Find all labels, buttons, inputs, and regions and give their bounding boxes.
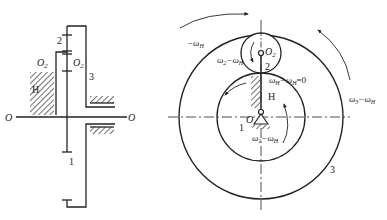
label-omega2-minus-omegah: ω2−ωH [217,55,244,66]
label-carrier-h: H [32,84,39,95]
label-neg-omega-h: −ωH [187,38,204,49]
label-sun-1-right: 1 [239,122,244,133]
left-schematic [16,26,127,207]
label-omega1-minus-omegah: ω1−ωH [252,133,279,144]
right-labels: O2 2 H O 1 3 −ωH ω2−ωH ωH−ωH=0 ω1−ωH ω3−… [187,38,376,175]
label-o2-left: O2 [37,57,48,70]
label-carrier-h-right: H [268,91,275,102]
label-gear-2: 2 [57,35,62,46]
bearing-hatch-lower [90,127,114,134]
label-o2-right: O2 [73,57,84,70]
arrow-omegah-rel [225,83,246,95]
label-axis-o-right: O [128,112,135,123]
left-labels: 2 O2 O2 3 H 1 O O [5,35,135,167]
ring-gear-lower-frame [67,124,115,207]
label-omega3-minus-omegah: ω3−ωH [349,94,376,105]
bearing-hatch-upper [90,96,114,103]
arrow-neg-omega-h [180,14,248,28]
label-ring-3: 3 [89,71,94,82]
label-axis-o-left: O [5,112,12,123]
arrow-omega1-rel [283,104,288,143]
label-center-o: O [246,114,253,125]
arrow-omega3-rel [318,30,350,80]
label-ring-3-right: 3 [330,164,335,175]
gear-train-figure: 2 O2 O2 3 H 1 O O O2 [0,0,387,220]
label-planet-2: 2 [265,61,270,72]
label-sun-1: 1 [69,156,74,167]
carrier-h-hatch [251,76,261,108]
label-omegah-minus-omegah-zero: ωH−ωH=0 [269,75,307,86]
planet-pivot-o2 [259,51,264,56]
ground-triangle-icon [254,114,268,124]
ground-hatch [252,125,270,129]
carrier-arm [56,52,67,115]
